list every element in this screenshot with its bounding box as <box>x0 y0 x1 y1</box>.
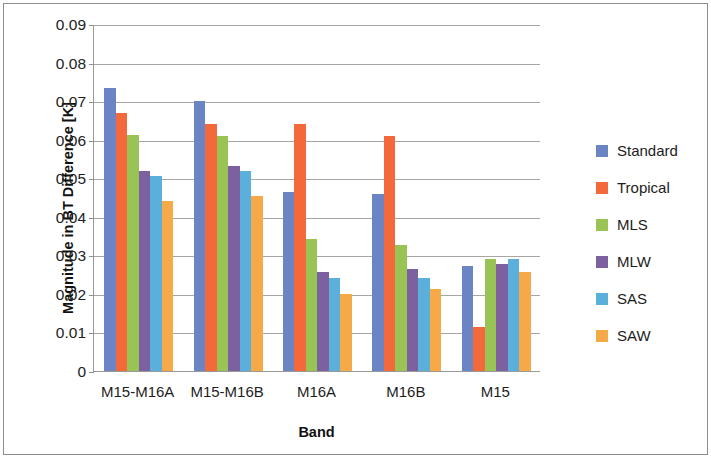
legend-label: Tropical <box>617 180 670 195</box>
bar <box>116 113 128 371</box>
legend-label: SAW <box>617 328 651 343</box>
bar <box>306 239 318 371</box>
bar <box>496 264 508 371</box>
bar-group <box>94 25 183 371</box>
bar <box>240 171 252 371</box>
x-axis-tick-label: M15-M16A <box>93 384 182 399</box>
y-axis-tick-label: 0 <box>77 364 86 380</box>
bar <box>473 327 485 371</box>
y-axis-tick-label: 0.04 <box>56 210 86 226</box>
bar <box>194 101 206 371</box>
legend-item: SAW <box>596 317 706 354</box>
y-axis-tick-label: 0.07 <box>56 94 86 110</box>
legend-item: Tropical <box>596 169 706 206</box>
bar <box>127 135 139 371</box>
legend-item: MLW <box>596 243 706 280</box>
legend-item: SAS <box>596 280 706 317</box>
bar-group <box>452 25 541 371</box>
legend-label: SAS <box>617 291 647 306</box>
bar <box>340 294 352 371</box>
y-axis-tick-label: 0.09 <box>56 17 86 33</box>
legend-swatch-icon <box>596 293 608 305</box>
legend-item: Standard <box>596 132 706 169</box>
bar <box>228 166 240 371</box>
bar <box>317 272 329 371</box>
y-axis-tick-label: 0.06 <box>56 133 86 149</box>
legend-swatch-icon <box>596 219 608 231</box>
bar <box>283 192 295 371</box>
chart-figure: Magnitude in BT Difference [K] 00.010.02… <box>0 0 711 458</box>
legend-swatch-icon <box>596 182 608 194</box>
bar <box>384 136 396 371</box>
bar <box>372 194 384 371</box>
bar <box>104 88 116 371</box>
bar <box>407 269 419 371</box>
x-axis-tick-label: M16A <box>272 384 361 399</box>
y-axis-tick-label: 0.08 <box>56 56 86 72</box>
bar <box>462 266 474 371</box>
legend-swatch-icon <box>596 256 608 268</box>
bar <box>162 201 174 371</box>
y-axis-tick <box>89 372 94 373</box>
legend-swatch-icon <box>596 330 608 342</box>
plot-area <box>93 25 540 372</box>
legend-swatch-icon <box>596 145 608 157</box>
y-axis-tick-label: 0.02 <box>56 287 86 303</box>
bar <box>430 289 442 371</box>
legend-label: MLS <box>617 217 648 232</box>
bar <box>519 272 531 371</box>
bar <box>294 124 306 371</box>
bar <box>150 176 162 371</box>
bar-group <box>183 25 272 371</box>
y-axis-tick-label: 0.05 <box>56 171 86 187</box>
y-axis-tick-label: 0.03 <box>56 248 86 264</box>
x-axis-tick-label: M15 <box>451 384 540 399</box>
y-axis-tick-label: 0.01 <box>56 325 86 341</box>
bar <box>205 124 217 371</box>
legend-label: MLW <box>617 254 651 269</box>
bar <box>251 196 263 371</box>
bar <box>217 136 229 371</box>
x-axis-title: Band <box>93 424 540 440</box>
x-axis-tick-label: M16B <box>361 384 450 399</box>
bar <box>329 278 341 371</box>
bar-group <box>273 25 362 371</box>
legend-item: MLS <box>596 206 706 243</box>
x-axis-tick-label: M15-M16B <box>182 384 271 399</box>
bar <box>485 259 497 371</box>
legend-label: Standard <box>617 143 678 158</box>
bar <box>418 278 430 371</box>
bar <box>508 259 520 371</box>
chart-legend: StandardTropicalMLSMLWSASSAW <box>596 132 706 354</box>
y-axis-tick-labels: 00.010.020.030.040.050.060.070.080.09 <box>10 0 86 458</box>
bar-group <box>362 25 451 371</box>
bar <box>139 171 151 371</box>
bar <box>395 245 407 371</box>
